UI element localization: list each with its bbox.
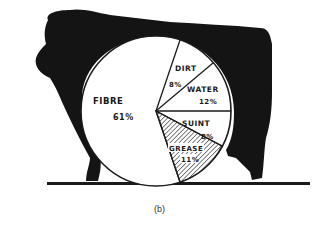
- label-dirt-name: DIRT: [175, 64, 197, 73]
- label-water-name: WATER: [187, 85, 219, 94]
- label-fibre-name: FIBRE: [93, 96, 123, 106]
- figure-caption: (b): [0, 204, 319, 214]
- label-dirt-pct: 8%: [169, 81, 182, 89]
- label-grease-pct: 11%: [181, 156, 199, 164]
- label-suint-pct: 8%: [201, 133, 214, 141]
- wool-composition-figure: FIBRE 61% DIRT 8% WATER 12% SUINT 8% GRE…: [0, 0, 319, 225]
- label-suint-name: SUINT: [182, 119, 211, 128]
- label-water-pct: 12%: [199, 98, 217, 106]
- label-grease-name: GREASE: [169, 145, 203, 153]
- pie-chart: [81, 36, 231, 186]
- label-fibre-pct: 61%: [113, 113, 134, 122]
